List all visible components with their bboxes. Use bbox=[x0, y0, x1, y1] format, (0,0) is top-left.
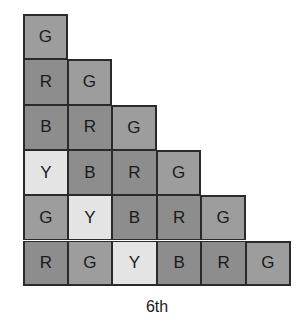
grid-cell: B bbox=[112, 195, 157, 240]
grid-cell: B bbox=[23, 105, 68, 150]
grid-cell: G bbox=[23, 195, 68, 240]
grid-cell: Y bbox=[23, 150, 68, 195]
grid-cell: G bbox=[201, 195, 246, 240]
grid-cell: R bbox=[157, 195, 202, 240]
grid-cell: Y bbox=[68, 195, 113, 240]
grid-cell: B bbox=[157, 241, 202, 286]
grid-cell: B bbox=[68, 150, 113, 195]
grid-cell: R bbox=[23, 241, 68, 286]
grid-cell: G bbox=[157, 150, 202, 195]
grid-cell: R bbox=[112, 150, 157, 195]
grid-cell: R bbox=[68, 105, 113, 150]
grid-cell: G bbox=[112, 105, 157, 150]
triangle-grid: GRGBRGYBRGGYBRGRGYBRG bbox=[23, 14, 291, 286]
grid-cell: R bbox=[201, 241, 246, 286]
grid-cell: G bbox=[246, 241, 291, 286]
grid-cell: G bbox=[68, 241, 113, 286]
figure-caption: 6th bbox=[0, 298, 306, 316]
grid-cell: Y bbox=[112, 241, 157, 286]
grid-cell: R bbox=[23, 59, 68, 104]
grid-cell: G bbox=[68, 59, 113, 104]
grid-cell: G bbox=[23, 14, 68, 59]
